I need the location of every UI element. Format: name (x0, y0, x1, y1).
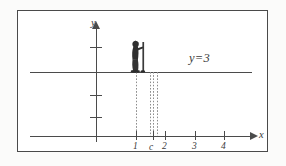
math-figure: 1 c 2 3 4 x y y=3 (0, 0, 286, 166)
y-axis (96, 28, 97, 142)
y-tick-2 (90, 95, 102, 96)
x-tick-1 (136, 131, 137, 140)
drop-line-1 (136, 72, 137, 136)
drop-line-3 (157, 72, 158, 136)
person-figure-icon (129, 40, 151, 73)
figure-frame (17, 10, 268, 152)
drop-line-c (153, 72, 154, 136)
x-tick-label-2: 2 (162, 142, 167, 152)
x-tick-4 (224, 131, 225, 140)
x-tick-3 (195, 131, 196, 140)
y-tick-4 (90, 47, 102, 48)
y-tick-1 (90, 117, 102, 118)
x-axis (30, 136, 252, 137)
x-tick-label-c: c (149, 143, 153, 153)
drop-line-2 (150, 72, 151, 136)
y-axis-label: y (91, 18, 96, 29)
x-tick-2 (165, 131, 166, 140)
x-tick-label-1: 1 (133, 142, 138, 152)
x-tick-label-3: 3 (192, 142, 197, 152)
equation-label-y-equals-3: y=3 (189, 52, 210, 65)
x-tick-c (153, 131, 154, 140)
x-axis-arrow-icon (250, 132, 258, 140)
x-axis-label: x (259, 130, 264, 141)
x-tick-label-4: 4 (221, 142, 226, 152)
